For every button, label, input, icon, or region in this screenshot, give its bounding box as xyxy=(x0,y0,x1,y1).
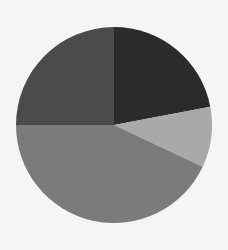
pie-chart xyxy=(0,0,228,250)
pie-slice-4 xyxy=(16,27,114,125)
pie-chart-graphic xyxy=(0,0,228,250)
